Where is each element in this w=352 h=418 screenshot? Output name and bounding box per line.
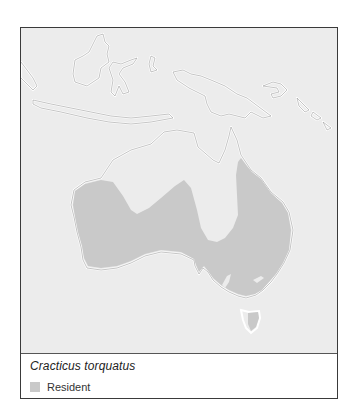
legend-swatch-icon xyxy=(30,382,40,392)
range-map-figure: Cracticus torquatus Resident xyxy=(20,27,338,399)
landmass-new-guinea xyxy=(173,70,271,118)
map-panel xyxy=(21,28,337,354)
species-name: Cracticus torquatus xyxy=(30,359,135,373)
landmass-java xyxy=(33,100,173,124)
islands xyxy=(21,34,331,130)
legend-label: Resident xyxy=(47,381,90,393)
landmass-borneo xyxy=(73,34,109,86)
map-legend: Cracticus torquatus Resident xyxy=(21,354,337,398)
legend-item-resident: Resident xyxy=(30,381,90,393)
map-svg xyxy=(21,28,337,353)
landmass-sulawesi xyxy=(109,58,137,96)
